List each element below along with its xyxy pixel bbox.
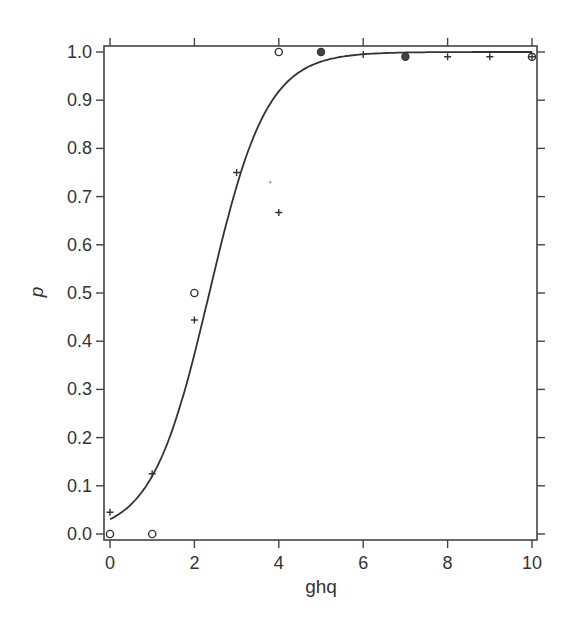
y-tick-label: 0.4 (67, 331, 92, 351)
y-axis-title: p (26, 287, 47, 299)
y-tick-label: 0.2 (67, 428, 92, 448)
x-tick-label: 0 (105, 553, 115, 573)
point-circle (149, 530, 156, 537)
point-plus (360, 51, 367, 58)
point-plus (233, 169, 240, 176)
x-axis-title: ghq (305, 576, 337, 597)
fitted-curve (110, 52, 532, 519)
plot-box (104, 46, 537, 540)
point-plus (486, 53, 493, 60)
y-tick-label: 0.1 (67, 476, 92, 496)
data-points (106, 48, 535, 537)
logistic-curve (110, 52, 532, 519)
point-circle (275, 48, 282, 55)
y-axis: 0.00.10.20.30.40.50.60.70.80.91.0 (67, 42, 545, 544)
point-plus (275, 209, 282, 216)
point-plus (444, 53, 451, 60)
point-plus (191, 316, 198, 323)
y-tick-label: 0.3 (67, 379, 92, 399)
y-tick-label: 0.5 (67, 283, 92, 303)
x-tick-label: 10 (522, 553, 542, 573)
y-tick-label: 1.0 (67, 42, 92, 62)
y-tick-label: 0.7 (67, 187, 92, 207)
x-tick-label: 4 (274, 553, 284, 573)
point-filled (317, 48, 324, 55)
y-tick-label: 0.8 (67, 138, 92, 158)
y-tick-label: 0.9 (67, 90, 92, 110)
point-dot (269, 181, 271, 183)
x-tick-label: 2 (189, 553, 199, 573)
y-tick-label: 0.0 (67, 524, 92, 544)
point-circle (191, 289, 198, 296)
y-tick-label: 0.6 (67, 235, 92, 255)
point-circle (106, 530, 113, 537)
logistic-chart: 0.00.10.20.30.40.50.60.70.80.91.0 024681… (0, 0, 572, 631)
x-axis: 0246810 (105, 38, 542, 573)
x-tick-label: 6 (358, 553, 368, 573)
point-filled (402, 53, 409, 60)
point-plus (107, 509, 114, 516)
x-tick-label: 8 (443, 553, 453, 573)
